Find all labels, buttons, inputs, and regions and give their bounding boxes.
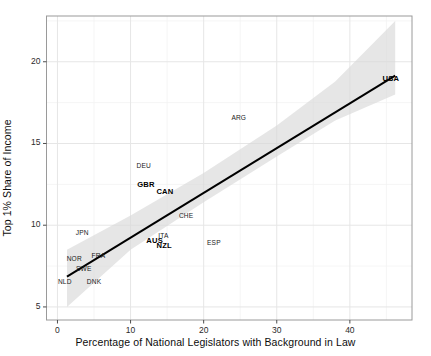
- scatter-plot-canvas: [0, 0, 431, 356]
- data-point-label-nor: NOR: [67, 254, 82, 261]
- data-point-label-esp: ESP: [207, 238, 221, 245]
- data-point-label-gbr: GBR: [137, 180, 154, 189]
- y-tick-label: 15: [19, 137, 41, 147]
- data-point-label-deu: DEU: [137, 161, 151, 168]
- data-point-label-swe: SWE: [76, 264, 91, 271]
- data-point-label-ita: ITA: [158, 232, 168, 239]
- data-point-label-che: CHE: [179, 212, 193, 219]
- data-point-label-arg: ARG: [231, 114, 246, 121]
- y-tick-label: 5: [19, 301, 41, 311]
- data-point-label-fra: FRA: [92, 251, 106, 258]
- x-tick-label: 0: [45, 325, 69, 335]
- data-point-label-usa: USA: [382, 74, 399, 83]
- x-tick-label: 30: [265, 325, 289, 335]
- data-point-label-jpn: JPN: [76, 228, 89, 235]
- x-tick-label: 40: [338, 325, 362, 335]
- data-point-label-nzl: NZL: [157, 240, 172, 249]
- chart-figure: 010203040 5101520 NLDNORJPNSWEDNKFRADEUG…: [0, 0, 431, 356]
- x-tick-label: 20: [192, 325, 216, 335]
- y-tick-label: 10: [19, 219, 41, 229]
- x-tick-label: 10: [119, 325, 143, 335]
- data-point-label-nld: NLD: [58, 277, 72, 284]
- x-axis-title: Percentage of National Legislators with …: [0, 336, 431, 348]
- y-tick-label: 20: [19, 56, 41, 66]
- data-point-label-dnk: DNK: [87, 277, 101, 284]
- confidence-band: [67, 21, 395, 307]
- regression-line: [67, 76, 395, 277]
- data-point-label-can: CAN: [156, 186, 173, 195]
- y-axis-title: Top 1% Share of Income: [0, 0, 14, 356]
